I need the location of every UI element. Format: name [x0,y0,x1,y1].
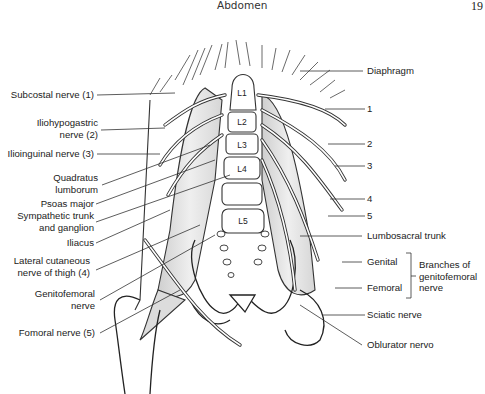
label-nerve-5: 5 [367,210,372,222]
label-nerve-4: 4 [367,193,372,205]
label-genital-branch: Genital [367,256,397,268]
label-nerve-1: 1 [367,103,372,115]
label-nerve-3: 3 [367,160,372,172]
label-iliacus: Iliacus [2,237,94,249]
vertebra-l5: L5 [238,216,248,226]
vertebra-l1: L1 [237,88,247,98]
label-obturator-nerve: Oblurator nervo [367,339,434,351]
label-femoral-branch: Femoral [367,282,402,294]
sacral-foramina [217,231,269,278]
vertebra-l2: L2 [237,117,247,127]
label-ilioinguinal-nerve: Ilioinguinal nerve (3) [0,148,94,160]
label-nerve-2: 2 [367,138,372,150]
label-sympathetic-trunk: Sympathetic trunkand ganglion [2,210,94,233]
label-iliohypogastric-nerve: Iliohypogastricnerve (2) [2,117,98,140]
label-sciatic-nerve: Sciatic nerve [367,309,422,321]
label-lumbosacral-trunk: Lumbosacral trunk [367,230,446,242]
label-branches-of-genitofemoral: Branches ofgenitofemoralnerve [419,259,477,294]
label-femoral-nerve: Fomoral nerve (5) [2,327,95,339]
label-quadratus-lumborum: Quadratuslumborum [2,172,98,195]
label-psoas-major: Psoas major [2,198,94,210]
vertebra-l4: L4 [237,164,247,174]
vertebra-l3: L3 [237,140,247,150]
label-diaphragm: Diaphragm [367,65,414,77]
label-lateral-cutaneous-nerve: Lateral cutaneousnerve of thigh (4) [2,255,90,278]
label-genitofemoral-nerve: Genitofemoralnerve [2,288,95,311]
vertebral-column [222,75,264,234]
label-subcostal-nerve: Subcostal nerve (1) [2,89,94,101]
